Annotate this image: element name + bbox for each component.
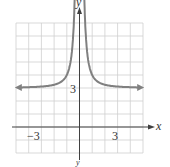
y-tick-3: 3 <box>70 82 76 97</box>
chart-canvas <box>0 0 170 167</box>
y-axis-label: y <box>76 0 81 10</box>
x-tick-3: 3 <box>112 129 118 144</box>
bottom-label: y <box>76 158 80 167</box>
x-tick-neg3: −3 <box>27 129 40 144</box>
x-axis-label: x <box>156 119 161 134</box>
